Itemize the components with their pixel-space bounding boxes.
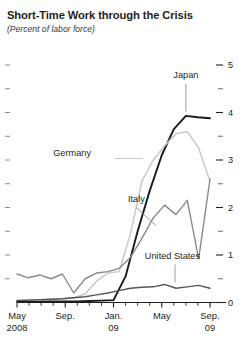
x-tick-label: Sep. xyxy=(200,310,219,321)
series-lines xyxy=(17,116,210,302)
series-line-germany xyxy=(17,132,210,301)
series-line-italy xyxy=(17,179,210,293)
series-label-germany: Germany xyxy=(53,148,91,158)
line-chart: 012345 JapanGermanyItalyUnited States Ma… xyxy=(0,0,243,350)
series-label-italy: Italy xyxy=(128,194,145,204)
y-tick-label: 5 xyxy=(228,60,233,70)
x-axis-tick-labels: May2008Sep.Jan.09MaySep.09 xyxy=(7,310,220,333)
x-tick-label: May xyxy=(8,310,26,321)
x-tick-label-year: 09 xyxy=(205,322,215,333)
x-tick-label: Jan. xyxy=(105,310,123,321)
y-tick-label: 0 xyxy=(228,298,233,308)
x-tick-label: Sep. xyxy=(56,310,75,321)
x-tick-label-year: 2008 xyxy=(7,322,28,333)
x-tick-label: May xyxy=(153,310,171,321)
y-tick-label: 4 xyxy=(228,108,233,118)
y-axis-tick-labels: 012345 xyxy=(228,60,233,308)
x-tick-label-year: 09 xyxy=(108,322,118,333)
x-axis-ticks xyxy=(17,303,210,308)
chart-page: Short-Time Work through the Crisis (Perc… xyxy=(0,0,243,350)
series-label-united-states: United States xyxy=(145,251,201,261)
series-label-japan: Japan xyxy=(173,70,198,80)
y-axis-minor-ticks xyxy=(5,65,223,279)
series-annotation-labels: JapanGermanyItalyUnited States xyxy=(53,70,200,260)
y-tick-label: 3 xyxy=(228,155,233,165)
y-tick-label: 2 xyxy=(228,203,233,213)
y-tick-label: 1 xyxy=(228,250,233,260)
